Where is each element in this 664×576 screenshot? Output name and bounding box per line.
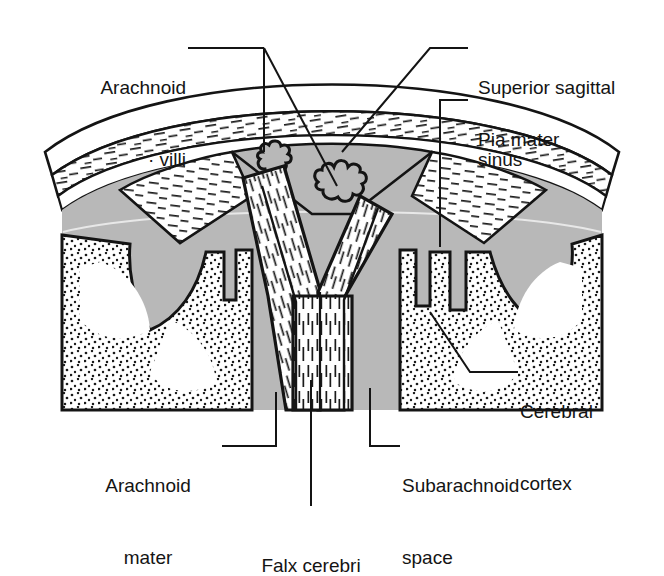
label-arachnoid-villi-line2: · villi [2,148,186,172]
label-subarachnoid-space-line2: space [402,546,582,570]
label-falx-cerebri-line1: Falx cerebri [241,554,381,576]
label-pia-mater: Pia mater [478,80,662,200]
label-arachnoid-mater: Arachnoid mater [78,426,218,576]
label-arachnoid-villi-line1: Arachnoid [2,76,186,100]
label-arachnoid-mater-line2: mater [78,546,218,570]
label-pia-mater-line1: Pia mater [478,128,662,152]
label-falx-cerebri: Falx cerebri [241,506,381,576]
label-subarachnoid-space: Subarachnoid space [402,426,582,576]
label-subarachnoid-space-line1: Subarachnoid [402,474,582,498]
label-arachnoid-mater-line1: Arachnoid [78,474,218,498]
label-cerebral-cortex-line1: Cerebral [520,400,660,424]
label-arachnoid-villi: Arachnoid · villi [2,28,186,220]
